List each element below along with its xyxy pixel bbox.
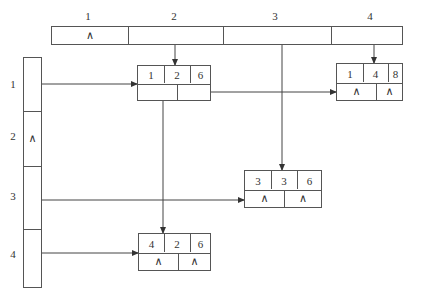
node-down-ptr	[138, 84, 177, 100]
col-label-1: 1	[80, 10, 96, 22]
node-right-ptr: ∧	[178, 253, 211, 270]
divider	[388, 64, 389, 82]
col-label-3: 3	[267, 10, 283, 22]
divider	[190, 234, 191, 252]
row-header-cell-2: ∧	[24, 111, 41, 166]
node-val: 6	[297, 171, 322, 190]
node-col: 2	[164, 234, 190, 253]
row-header-cell-4	[24, 229, 41, 287]
node-down-ptr: ∧	[337, 83, 376, 100]
node-val: 8	[388, 64, 403, 83]
node-row: 1	[337, 64, 363, 83]
row-header-cell-3	[24, 166, 41, 229]
node-val: 6	[190, 66, 211, 84]
node-3-3-6: 3 3 6 ∧ ∧	[244, 170, 322, 208]
row-header-cell-1	[24, 58, 41, 111]
node-col: 4	[363, 64, 388, 83]
col-header-cell-1: ∧	[52, 27, 128, 44]
divider	[297, 171, 298, 189]
node-row: 4	[139, 234, 164, 253]
row-header-array: ∧	[23, 57, 42, 288]
node-4-2-6: 4 2 6 ∧ ∧	[138, 233, 211, 271]
divider	[164, 66, 165, 83]
node-right-ptr: ∧	[376, 83, 403, 100]
node-row: 3	[245, 171, 271, 190]
node-down-ptr: ∧	[245, 190, 284, 207]
divider	[164, 234, 165, 252]
node-col: 2	[164, 66, 190, 84]
node-row: 1	[138, 66, 164, 84]
row-label-2: 2	[8, 130, 18, 142]
divider	[363, 64, 364, 82]
col-header-cell-2	[128, 27, 223, 44]
col-label-2: 2	[166, 10, 182, 22]
node-right-ptr	[177, 84, 211, 100]
node-right-ptr: ∧	[284, 190, 322, 207]
col-header-cell-4	[331, 27, 403, 44]
row-label-1: 1	[8, 78, 18, 90]
row-label-3: 3	[8, 190, 18, 202]
node-1-4-8: 1 4 8 ∧ ∧	[336, 63, 403, 101]
column-header-array: ∧	[51, 26, 403, 45]
divider	[190, 66, 191, 83]
col-label-4: 4	[362, 10, 378, 22]
divider	[271, 171, 272, 189]
node-down-ptr: ∧	[139, 253, 178, 270]
node-val: 6	[190, 234, 211, 253]
node-col: 3	[271, 171, 297, 190]
node-1-2-6: 1 2 6	[137, 65, 211, 101]
col-header-cell-3	[223, 27, 331, 44]
row-label-4: 4	[8, 248, 18, 260]
